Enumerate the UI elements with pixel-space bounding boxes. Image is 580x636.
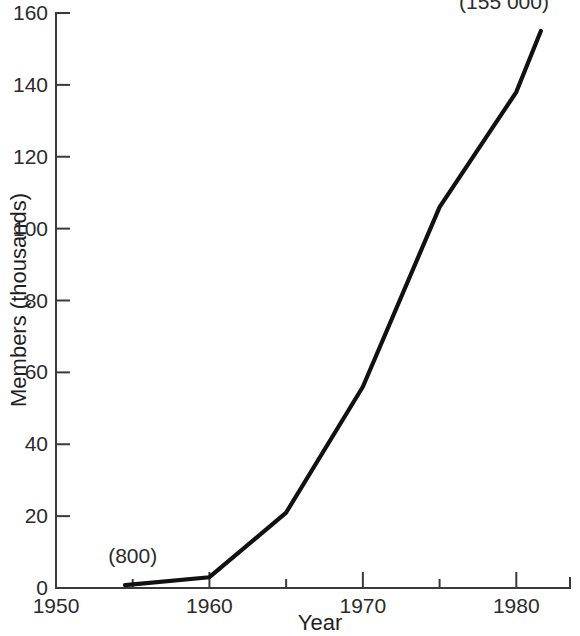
line-chart: Members (thousands) Year 020406080100120…	[0, 0, 580, 636]
y-tick-label: 140	[13, 73, 48, 96]
x-tick-label: 1970	[340, 594, 387, 617]
x-tick-label: 1980	[493, 594, 540, 617]
y-tick-label: 20	[25, 504, 48, 527]
x-tick-label: 1960	[186, 594, 233, 617]
series-line-members	[125, 31, 541, 585]
y-tick-label: 40	[25, 432, 48, 455]
x-tick-label: 1950	[33, 594, 80, 617]
y-tick-label: 100	[13, 217, 48, 240]
end-value-annotation: (155 000)	[459, 0, 549, 13]
start-value-annotation: (800)	[108, 544, 157, 567]
y-tick-label: 60	[25, 360, 48, 383]
y-tick-label: 120	[13, 145, 48, 168]
y-tick-label: 160	[13, 1, 48, 24]
x-axis-title: Year	[298, 610, 342, 635]
y-tick-label: 80	[25, 289, 48, 312]
chart-plot-area: Members (thousands) Year 020406080100120…	[0, 0, 580, 636]
chart-annotations: (800)(155 000)	[108, 0, 549, 567]
